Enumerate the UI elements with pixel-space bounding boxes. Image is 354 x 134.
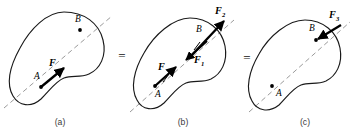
panel-b: F F 1 F 2 A B (b) <box>130 5 234 127</box>
point-B-dot-a <box>78 28 82 32</box>
panel-a: F A B (a) <box>4 12 112 127</box>
force-vector-F-a <box>41 68 64 87</box>
figure-canvas: F A B (a) = F F 1 F 2 A B (b) = <box>0 0 354 134</box>
force-label-F2-subscript: 2 <box>221 11 226 18</box>
equals-sign-2: = <box>243 50 250 65</box>
force-label-F3-base: F <box>328 9 336 20</box>
point-label-A-c: A <box>275 88 282 98</box>
force-label-F-a: F <box>48 57 56 68</box>
force-label-F1-b: F 1 <box>193 54 204 67</box>
equals-sign-1: = <box>118 48 125 63</box>
point-label-A-a: A <box>33 71 40 81</box>
force-label-F1-subscript: 1 <box>201 60 204 67</box>
force-label-F3-subscript: 3 <box>335 15 340 22</box>
rigid-body-outline-b <box>133 18 225 109</box>
point-B-dot-c <box>314 38 318 42</box>
point-label-B-c: B <box>309 23 315 33</box>
point-A-dot-c <box>270 84 274 88</box>
transmissibility-figure: F A B (a) = F F 1 F 2 A B (b) = <box>0 0 354 134</box>
force-label-F3-c: F 3 <box>328 9 340 22</box>
force-label-F2-base: F <box>214 5 222 16</box>
force-label-F-b: F <box>157 61 165 72</box>
point-A-dot-a <box>39 85 43 89</box>
force-label-F1-base: F <box>193 54 201 65</box>
caption-a: (a) <box>55 117 66 127</box>
force-label-F2-b: F 2 <box>214 5 226 18</box>
line-of-action-a <box>4 16 112 108</box>
point-A-dot-b <box>153 84 157 88</box>
caption-b: (b) <box>178 117 189 127</box>
force-vector-F3-c <box>318 25 341 39</box>
point-label-A-b: A <box>154 89 161 99</box>
panel-c: F 3 A B (c) <box>248 9 350 127</box>
line-of-action-b <box>130 20 234 112</box>
point-label-B-b: B <box>196 24 202 34</box>
point-label-B-a: B <box>75 14 81 24</box>
caption-c: (c) <box>300 117 310 127</box>
